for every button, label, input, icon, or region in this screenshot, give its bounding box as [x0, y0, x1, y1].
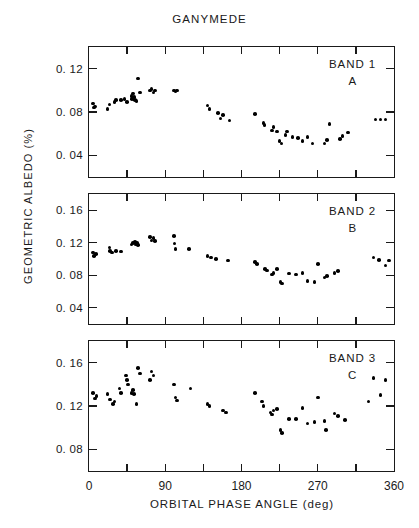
data-point [324, 428, 328, 432]
data-point [285, 130, 289, 134]
y-tick-left [89, 307, 97, 308]
data-point [287, 272, 291, 276]
band-name: BAND 2 [329, 205, 376, 217]
data-point [221, 113, 225, 117]
data-point [136, 77, 140, 81]
data-point [125, 100, 129, 104]
y-tick-right [386, 210, 394, 211]
figure-ganymede-albedo: GANYMEDE GEOMETRIC ALBEDO (%) BAND 1 A 0… [0, 0, 419, 528]
data-point [118, 387, 122, 391]
y-tick-label: 0. 12 [56, 237, 83, 249]
data-point [384, 118, 388, 122]
data-point [316, 396, 320, 400]
data-point [294, 417, 298, 421]
x-tick-bottom [317, 170, 318, 177]
data-point [275, 407, 279, 411]
data-point [280, 142, 284, 146]
data-point [275, 130, 279, 134]
data-point [172, 383, 176, 387]
data-point [262, 404, 266, 408]
y-tick-right [386, 155, 394, 156]
data-point [138, 91, 142, 95]
data-point [379, 393, 383, 397]
panel-annotation-band-2: BAND 2 B [329, 203, 376, 236]
data-point [187, 247, 191, 251]
data-point [296, 136, 300, 140]
data-point [323, 142, 327, 146]
y-tick-left [89, 449, 97, 450]
data-point [323, 419, 327, 423]
y-tick-label: 0. 04 [56, 149, 83, 161]
y-tick-left [89, 155, 97, 156]
data-point [106, 392, 110, 396]
x-tick-bottom [126, 317, 127, 324]
y-tick-left [89, 242, 97, 243]
y-axis-label: GEOMETRIC ALBEDO (%) [22, 128, 34, 284]
y-tick-label: 0. 08 [56, 443, 83, 455]
panel-band-3: BAND 3 C 0901802703600. 080. 120. 16 [88, 340, 395, 472]
x-tick-top [203, 47, 204, 54]
data-point [313, 280, 317, 284]
data-point [280, 431, 284, 435]
band-name: BAND 1 [329, 58, 376, 70]
x-tick-label: 180 [231, 479, 251, 493]
data-point [136, 243, 140, 247]
data-point [284, 133, 288, 137]
data-point [119, 250, 123, 254]
x-tick-top [355, 194, 356, 201]
x-tick-bottom [203, 170, 204, 177]
y-tick-label: 0. 08 [56, 106, 83, 118]
x-tick-top [355, 47, 356, 54]
x-tick-top [165, 47, 166, 54]
data-point [260, 400, 264, 404]
x-tick-top [241, 47, 242, 54]
x-tick-label: 0 [86, 479, 93, 493]
data-point [175, 89, 179, 93]
y-tick-label: 0. 12 [56, 63, 83, 75]
x-tick-top [126, 47, 127, 54]
data-point [384, 378, 388, 382]
data-point [253, 391, 257, 395]
x-tick-bottom [241, 464, 242, 471]
data-point [294, 273, 298, 277]
band-name: BAND 3 [329, 352, 376, 364]
data-point [379, 118, 383, 122]
data-point [341, 134, 345, 138]
data-point [208, 107, 212, 111]
data-point [306, 135, 310, 139]
data-point [214, 257, 218, 261]
data-point [126, 383, 130, 387]
y-tick-left [89, 68, 97, 69]
x-tick-bottom [126, 464, 127, 471]
x-tick-label: 90 [159, 479, 172, 493]
panel-band-2: BAND 2 B 0. 040. 080. 120. 16 [88, 193, 395, 325]
data-point [255, 262, 259, 266]
data-point [189, 387, 193, 391]
data-point [148, 378, 152, 382]
y-tick-left [89, 210, 97, 211]
data-point [301, 271, 305, 275]
data-point [216, 111, 220, 115]
data-point [367, 400, 371, 404]
data-point [270, 129, 274, 133]
x-tick-bottom [203, 464, 204, 471]
y-tick-label: 0. 16 [56, 204, 83, 216]
x-tick-bottom [355, 464, 356, 471]
data-point [95, 394, 99, 398]
data-point [325, 138, 329, 142]
data-point [272, 125, 276, 129]
data-point [387, 259, 391, 263]
band-letter: C [329, 367, 376, 384]
x-tick-bottom [241, 317, 242, 324]
data-point [125, 378, 129, 382]
band-letter: A [329, 73, 376, 90]
data-point [135, 402, 139, 406]
data-point [209, 256, 213, 260]
x-tick-top [241, 341, 242, 348]
x-tick-bottom [165, 170, 166, 177]
data-point [313, 420, 317, 424]
x-tick-bottom [317, 464, 318, 471]
data-point [174, 247, 178, 251]
x-tick-top [355, 341, 356, 348]
data-point [338, 137, 342, 141]
